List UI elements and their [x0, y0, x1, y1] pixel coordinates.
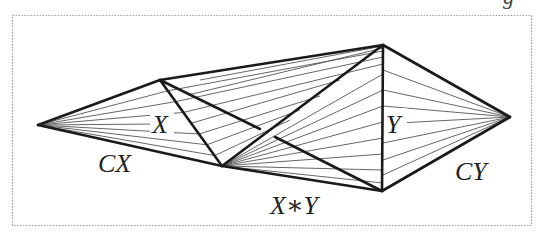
edge-cy-top	[383, 45, 510, 117]
edge-y-segment	[382, 45, 383, 191]
edge-join-diagonal	[222, 45, 383, 166]
edge-hidden-upper	[160, 80, 260, 129]
cut-off-text: g	[503, 0, 514, 9]
label-cx: CX	[98, 149, 132, 178]
join-diagram: g	[0, 0, 546, 234]
edge-cx-top	[38, 80, 160, 125]
label-join: X∗Y	[269, 191, 321, 220]
label-y: Y	[386, 110, 403, 139]
label-cy: CY	[455, 157, 489, 186]
label-x: X	[151, 110, 169, 139]
